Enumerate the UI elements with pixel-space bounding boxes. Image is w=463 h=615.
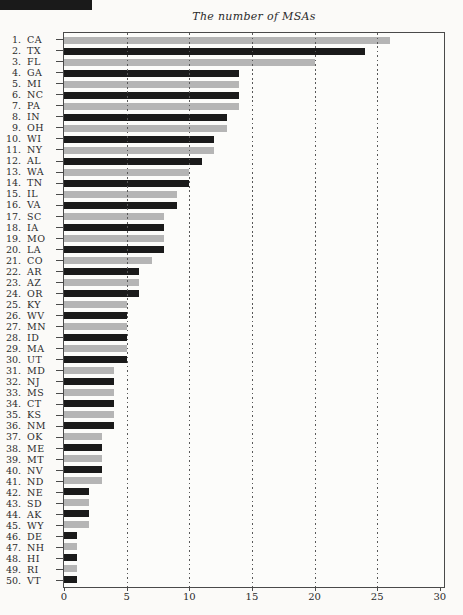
rank-label: 39. <box>0 455 21 465</box>
bar-row <box>64 266 444 277</box>
state-label: PA <box>27 101 40 111</box>
y-tick-mark <box>56 337 63 338</box>
bar-row <box>64 563 444 574</box>
x-tick-label: 5 <box>123 592 129 602</box>
bar-row <box>64 541 444 552</box>
rank-label: 10. <box>0 134 21 144</box>
rank-label: 25. <box>0 300 21 310</box>
rank-label: 11. <box>0 145 21 155</box>
y-label-row: 4.GA <box>0 67 63 78</box>
bar-row <box>64 189 444 200</box>
y-label-row: 7.PA <box>0 100 63 111</box>
y-tick-mark <box>56 61 63 62</box>
bar-ky <box>64 301 127 308</box>
y-tick-mark <box>56 94 63 95</box>
bar-row <box>64 288 444 299</box>
state-label: IL <box>27 189 38 199</box>
bar-hi <box>64 554 77 561</box>
rank-label: 14. <box>0 178 21 188</box>
state-label: MT <box>27 455 44 465</box>
state-label: OR <box>27 289 43 299</box>
cropped-header-bar <box>0 0 92 10</box>
rank-label: 33. <box>0 388 21 398</box>
bar-row <box>64 255 444 266</box>
bar-row <box>64 420 444 431</box>
state-label: NC <box>27 90 43 100</box>
rank-label: 23. <box>0 278 21 288</box>
state-label: CO <box>27 256 43 266</box>
state-label: ME <box>27 444 44 454</box>
y-label-row: 13.WA <box>0 167 63 178</box>
y-label-row: 20.LA <box>0 244 63 255</box>
bar-row <box>64 156 444 167</box>
bar-row <box>64 68 444 79</box>
bar-row <box>64 508 444 519</box>
rank-label: 42. <box>0 488 21 498</box>
y-tick-mark <box>56 426 63 427</box>
state-label: OK <box>27 432 43 442</box>
state-label: ND <box>27 477 44 487</box>
bar-row <box>64 530 444 541</box>
bar-ms <box>64 389 114 396</box>
state-label: CT <box>27 399 41 409</box>
rank-label: 1. <box>0 35 21 45</box>
x-tick-label: 15 <box>246 592 259 602</box>
y-tick-mark <box>56 404 63 405</box>
y-label-row: 30.UT <box>0 354 63 365</box>
bar-pa <box>64 103 239 110</box>
bar-row <box>64 321 444 332</box>
chart-title: The number of MSAs <box>63 10 445 23</box>
rank-label: 8. <box>0 112 21 122</box>
bar-wi <box>64 136 214 143</box>
rank-label: 3. <box>0 57 21 67</box>
bar-il <box>64 191 177 198</box>
y-label-row: 6.NC <box>0 89 63 100</box>
bar-row <box>64 145 444 156</box>
y-tick-mark <box>56 83 63 84</box>
rank-label: 26. <box>0 311 21 321</box>
bars-area <box>64 33 444 587</box>
bar-row <box>64 552 444 563</box>
y-label-row: 27.MN <box>0 321 63 332</box>
y-label-row: 21.CO <box>0 255 63 266</box>
y-label-row: 47.NH <box>0 542 63 553</box>
bar-row <box>64 101 444 112</box>
y-label-row: 38.ME <box>0 443 63 454</box>
bar-row <box>64 57 444 68</box>
y-tick-mark <box>56 459 63 460</box>
state-label: VA <box>27 200 41 210</box>
state-label: AK <box>27 510 42 520</box>
y-label-row: 16.VA <box>0 200 63 211</box>
bar-row <box>64 398 444 409</box>
rank-label: 5. <box>0 79 21 89</box>
state-label: NH <box>27 543 44 553</box>
y-label-row: 50.VT <box>0 575 63 586</box>
rank-label: 30. <box>0 355 21 365</box>
bar-wv <box>64 312 127 319</box>
state-label: IN <box>27 112 40 122</box>
bar-sc <box>64 213 164 220</box>
bar-ut <box>64 356 127 363</box>
y-tick-mark <box>56 50 63 51</box>
bar-row <box>64 442 444 453</box>
y-label-row: 25.KY <box>0 299 63 310</box>
bar-row <box>64 222 444 233</box>
y-label-row: 8.IN <box>0 111 63 122</box>
y-tick-mark <box>56 72 63 73</box>
x-tick-label: 25 <box>371 592 384 602</box>
y-tick-mark <box>56 39 63 40</box>
gridline-25 <box>377 33 378 587</box>
bar-az <box>64 279 139 286</box>
rank-label: 45. <box>0 521 21 531</box>
rank-label: 9. <box>0 123 21 133</box>
rank-label: 4. <box>0 68 21 78</box>
state-label: WY <box>27 521 44 531</box>
state-label: SD <box>27 499 42 509</box>
state-label: GA <box>27 68 42 78</box>
bar-oh <box>64 125 227 132</box>
bar-ak <box>64 510 89 517</box>
y-tick-mark <box>56 194 63 195</box>
rank-label: 50. <box>0 576 21 586</box>
y-tick-mark <box>56 172 63 173</box>
y-label-row: 29.MA <box>0 343 63 354</box>
